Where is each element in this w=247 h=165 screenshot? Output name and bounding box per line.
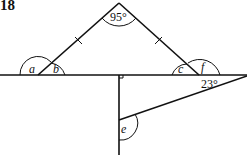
angle-b-label: b — [53, 62, 59, 76]
triangle-left-side — [38, 3, 119, 75]
slanted-line — [119, 76, 247, 120]
angle-a-arc — [20, 56, 51, 75]
angle-23-label: 23° — [201, 77, 218, 91]
angle-c-label: c — [178, 62, 184, 76]
geometry-diagram: 95° a b c f 23° e — [0, 0, 247, 165]
apex-angle-label: 95° — [110, 10, 127, 24]
angle-f-label: f — [201, 60, 206, 74]
angle-a-label: a — [29, 62, 35, 76]
angle-e-label: e — [121, 122, 127, 136]
